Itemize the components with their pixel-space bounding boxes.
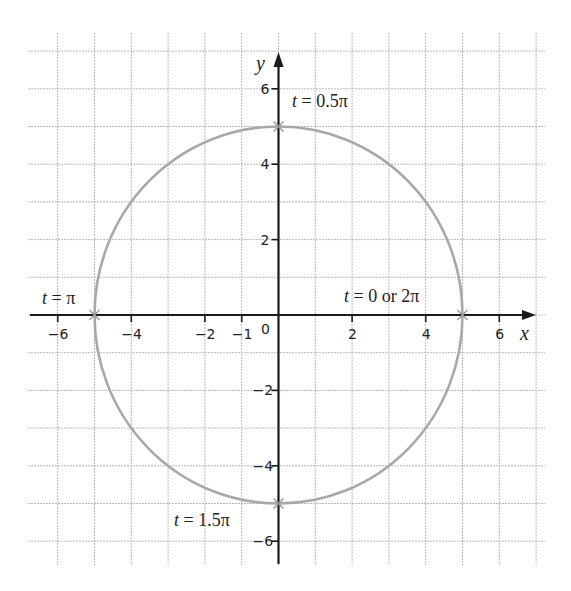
- param-value: = 1.5π: [179, 510, 230, 530]
- x-tick-label: −4: [121, 326, 142, 342]
- param-value: = 0.5π: [297, 91, 348, 111]
- point-annotation: t = 0 or 2π: [344, 286, 419, 306]
- x-axis-arrowhead: [522, 310, 536, 320]
- grid: [28, 33, 545, 565]
- y-tick-label: 4: [261, 156, 270, 172]
- y-tick-label: −6: [253, 533, 274, 549]
- parametric-circle-chart: x y 0 −6−4−2−1246642−2−4−6 t = 0.5πt = π…: [0, 0, 571, 591]
- y-tick-label: 6: [261, 81, 270, 97]
- x-tick-label: 2: [348, 326, 357, 342]
- y-axis-title: y: [254, 52, 265, 75]
- x-tick-label: 6: [495, 326, 504, 342]
- param-value: = π: [47, 288, 75, 308]
- axes: x y 0: [30, 52, 536, 564]
- point-annotation: t = π: [42, 288, 75, 308]
- y-tick-label: −2: [253, 382, 274, 398]
- y-tick-label: 2: [261, 232, 270, 248]
- x-tick-label: −1: [232, 326, 253, 342]
- x-tick-label: −2: [195, 326, 216, 342]
- x-axis-title: x: [519, 322, 529, 344]
- x-tick-label: −6: [48, 326, 69, 342]
- x-tick-label: 4: [422, 326, 431, 342]
- param-value: = 0 or 2π: [349, 286, 419, 306]
- y-axis-arrowhead: [274, 52, 284, 67]
- point-annotation: t = 1.5π: [174, 510, 230, 530]
- y-tick-label: −4: [253, 458, 274, 474]
- point-annotation: t = 0.5π: [292, 91, 348, 111]
- origin-label: 0: [261, 321, 270, 337]
